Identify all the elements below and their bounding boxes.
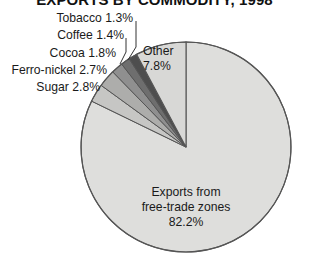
slice-label-cocoa: Cocoa 1.8% (0, 47, 116, 60)
slice-label-main-value: 82.2% (106, 215, 266, 230)
slice-label-main-line2: free-trade zones (106, 200, 266, 215)
slice-label-exports-from-free-trade-zones: Exports from free-trade zones 82.2% (106, 185, 266, 230)
slice-label-tobacco: Tobacco 1.3% (0, 12, 133, 25)
slice-label-other-name: Other (143, 44, 191, 59)
pie-chart: EXPORTS BY COMMODITY, 1998 Tobacco 1.3% … (0, 0, 309, 265)
slice-label-sugar: Sugar 2.8% (0, 81, 100, 94)
slice-label-main-line1: Exports from (106, 185, 266, 200)
slice-label-coffee: Coffee 1.4% (0, 29, 124, 42)
slice-label-other-value: 7.8% (143, 59, 191, 74)
slice-label-ferro-nickel: Ferro-nickel 2.7% (0, 64, 107, 77)
slice-label-other: Other 7.8% (143, 44, 191, 74)
leader-line-tobacco (128, 21, 136, 60)
